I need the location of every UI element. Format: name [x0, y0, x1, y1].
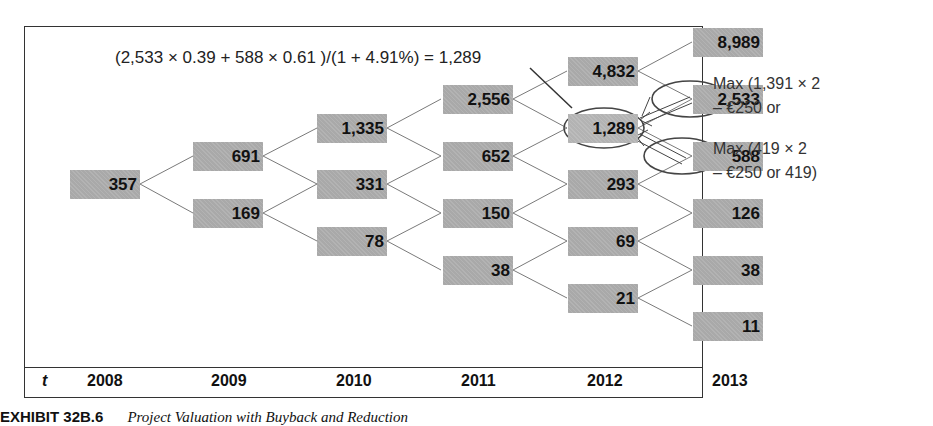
node-2012-2: 293 [568, 170, 638, 199]
node-2012-4: 21 [568, 284, 638, 313]
note-upper-line1: Max (1,391 × 2 [713, 72, 820, 96]
node-2010-0: 1,335 [317, 114, 387, 143]
formula-annotation: (2,533 × 0.39 + 588 × 0.61 )/(1 + 4.91%)… [115, 48, 481, 68]
axis-t-label: t [42, 372, 47, 390]
note-lower: Max (419 × 2 – €250 or 419) [713, 137, 817, 185]
node-2010-2: 78 [317, 227, 387, 256]
node-2012-0: 4,832 [568, 57, 638, 86]
note-upper-line2: – €250 or [713, 96, 820, 120]
year-2013: 2013 [712, 372, 748, 390]
caption-title: Project Valuation with Buyback and Reduc… [127, 409, 408, 425]
node-2013-3: 126 [693, 199, 763, 228]
node-2009-0: 691 [193, 142, 263, 171]
node-2012-3: 69 [568, 227, 638, 256]
node-2012-1-highlighted: 1,289 [568, 114, 638, 143]
note-upper: Max (1,391 × 2 – €250 or [713, 72, 820, 120]
node-2008-0: 357 [70, 170, 140, 199]
year-2008: 2008 [87, 372, 123, 390]
node-2013-0: 8,989 [693, 28, 763, 57]
node-2011-1: 652 [443, 142, 513, 171]
year-2009: 2009 [211, 372, 247, 390]
node-2013-4: 38 [693, 256, 763, 285]
node-2011-2: 150 [443, 199, 513, 228]
year-2012: 2012 [587, 372, 623, 390]
node-2009-1: 169 [193, 199, 263, 228]
note-lower-line2: – €250 or 419) [713, 161, 817, 185]
caption-label: EXHIBIT 32B.6 [0, 408, 103, 425]
year-2010: 2010 [336, 372, 372, 390]
note-lower-line1: Max (419 × 2 [713, 137, 817, 161]
node-2013-5: 11 [693, 312, 763, 341]
year-2011: 2011 [461, 372, 496, 390]
figure-caption: EXHIBIT 32B.6Project Valuation with Buyb… [0, 408, 408, 426]
node-2011-0: 2,556 [443, 85, 513, 114]
node-2010-1: 331 [317, 170, 387, 199]
node-2011-3: 38 [443, 256, 513, 285]
